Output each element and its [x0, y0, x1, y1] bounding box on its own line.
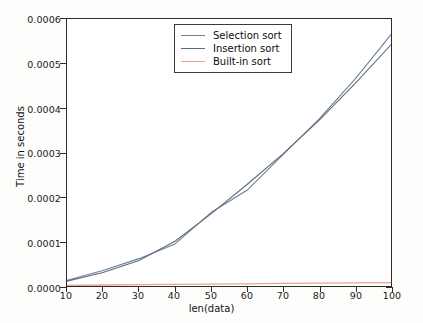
ytick-label: 0.0003 [27, 148, 61, 159]
legend-item: Built-in sort [179, 55, 285, 68]
legend: Selection sort Insertion sort Built-in s… [174, 24, 292, 73]
legend-label: Selection sort [213, 29, 282, 42]
legend-item: Selection sort [179, 29, 285, 42]
series-line-2 [67, 283, 391, 286]
ytick-label: 0.0006 [27, 14, 61, 25]
y-axis-title: Time in seconds [15, 72, 26, 222]
legend-color-swatch-insertion-sort [181, 48, 205, 49]
ytick-label: 0.0004 [27, 104, 61, 115]
x-axis-title: len(data) [0, 303, 423, 314]
ytick-label: 0.0005 [27, 59, 61, 70]
xtick-mark [102, 287, 103, 292]
legend-item: Insertion sort [179, 42, 285, 55]
xtick-mark [283, 287, 284, 292]
xtick-mark [356, 287, 357, 292]
series-line-1 [67, 45, 391, 281]
legend-label: Built-in sort [213, 55, 271, 68]
xtick-mark [175, 287, 176, 292]
xtick-mark [66, 287, 67, 292]
xtick-mark [138, 287, 139, 292]
ytick-label: 0.0001 [27, 238, 61, 249]
chart-screenshot: 0.0000 0.0001 0.0002 0.0003 0.0004 0.000… [0, 0, 423, 323]
ytick-label: 0.0002 [27, 193, 61, 204]
legend-color-swatch-built-in-sort [181, 61, 205, 62]
xtick-mark [247, 287, 248, 292]
xtick-mark [320, 287, 321, 292]
legend-label: Insertion sort [213, 42, 279, 55]
legend-color-swatch-selection-sort [181, 35, 205, 36]
xtick-mark [392, 287, 393, 292]
xtick-label: 80 [303, 290, 335, 301]
xtick-label: 40 [158, 290, 190, 301]
xtick-mark [211, 287, 212, 292]
